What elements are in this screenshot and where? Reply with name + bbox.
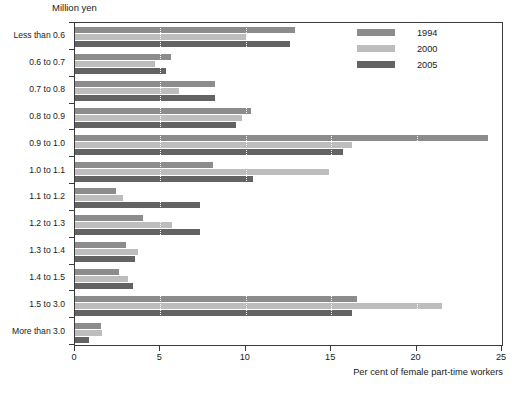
bar (75, 303, 442, 309)
bar (75, 169, 329, 175)
plot-area (74, 22, 503, 346)
x-axis-tick (245, 346, 246, 351)
bar (75, 142, 352, 148)
y-axis-tick (69, 49, 74, 50)
bar-group (75, 157, 502, 184)
x-axis-tick-label: 5 (157, 352, 162, 362)
bar (75, 195, 123, 201)
y-axis-tick-label: 1.0 to 1.1 (29, 165, 65, 175)
x-axis-tick (416, 346, 417, 351)
chart-figure: Million yen Less than 0.60.6 to 0.70.7 t… (0, 0, 518, 395)
y-axis-tick-label: 0.8 to 0.9 (29, 111, 65, 121)
y-axis-tick-label: Less than 0.6 (13, 30, 65, 40)
y-axis-tick-label: 0.9 to 1.0 (29, 138, 65, 148)
bar-group (75, 265, 502, 292)
legend-item: 2005 (357, 58, 437, 71)
bar (75, 122, 236, 128)
y-axis-tick (69, 183, 74, 184)
bar (75, 222, 172, 228)
y-axis-tick-label: 1.3 to 1.4 (29, 245, 65, 255)
y-axis-tick (69, 103, 74, 104)
legend-label: 2000 (417, 44, 437, 54)
y-axis-tick (69, 317, 74, 318)
x-axis-tick-label: 10 (240, 352, 250, 362)
x-axis-tick (159, 346, 160, 351)
bar (75, 61, 155, 67)
bar (75, 95, 215, 101)
legend-item: 2000 (357, 42, 437, 55)
y-axis-tick-label: 1.5 to 3.0 (29, 299, 65, 309)
y-axis-unit-title: Million yen (52, 2, 97, 13)
bar-group (75, 23, 502, 50)
bar (75, 162, 213, 168)
bar-rows (75, 23, 502, 345)
bar (75, 188, 116, 194)
bar (75, 81, 215, 87)
bar (75, 68, 166, 74)
y-axis-tick-label: More than 3.0 (12, 326, 65, 336)
bar (75, 276, 128, 282)
bar (75, 149, 343, 155)
y-axis-tick-label: 1.2 to 1.3 (29, 218, 65, 228)
legend-swatch (357, 61, 395, 68)
bar (75, 41, 290, 47)
x-axis-tick-label: 0 (71, 352, 76, 362)
bar-group (75, 50, 502, 77)
x-axis-tick-label: 25 (496, 352, 506, 362)
y-axis-tick (69, 344, 74, 345)
bar (75, 337, 89, 343)
bar (75, 330, 102, 336)
bar (75, 115, 242, 121)
legend-label: 2005 (417, 60, 437, 70)
bar (75, 34, 246, 40)
y-axis-tick-label: 0.6 to 0.7 (29, 57, 65, 67)
bar-group (75, 291, 502, 318)
x-axis-tick-label: 20 (410, 352, 420, 362)
bar (75, 135, 488, 141)
y-axis-tick (69, 210, 74, 211)
y-axis-tick (69, 237, 74, 238)
y-axis-tick (69, 76, 74, 77)
chart-legend: 199420002005 (357, 26, 437, 74)
legend-swatch (357, 29, 395, 36)
bar (75, 54, 171, 60)
bar-group (75, 130, 502, 157)
y-axis-tick (69, 264, 74, 265)
legend-swatch (357, 45, 395, 52)
y-axis-labels: Less than 0.60.6 to 0.70.7 to 0.80.8 to … (0, 22, 70, 346)
bar (75, 323, 101, 329)
bar (75, 249, 138, 255)
bar-group (75, 318, 502, 345)
y-axis-tick-label: 1.4 to 1.5 (29, 272, 65, 282)
bar (75, 27, 295, 33)
bar-group (75, 238, 502, 265)
bar-group (75, 77, 502, 104)
bar-group (75, 104, 502, 131)
bar (75, 256, 135, 262)
bar (75, 202, 200, 208)
y-axis-tick-label: 1.1 to 1.2 (29, 191, 65, 201)
y-axis-tick (69, 22, 74, 23)
bar (75, 108, 251, 114)
x-axis-tick (74, 346, 75, 351)
bar (75, 176, 253, 182)
legend-label: 1994 (417, 28, 437, 38)
bar (75, 310, 352, 316)
x-axis-tick-label: 15 (325, 352, 335, 362)
y-axis-tick (69, 290, 74, 291)
bar (75, 242, 126, 248)
bar (75, 215, 143, 221)
y-axis-tick (69, 156, 74, 157)
bar (75, 296, 357, 302)
x-axis-tick (330, 346, 331, 351)
bar (75, 283, 133, 289)
bar (75, 229, 200, 235)
bar-group (75, 184, 502, 211)
x-axis-tick (501, 346, 502, 351)
y-axis-tick-label: 0.7 to 0.8 (29, 84, 65, 94)
legend-item: 1994 (357, 26, 437, 39)
x-axis-title: Per cent of female part-time workers (353, 367, 503, 377)
bar (75, 269, 119, 275)
bar-group (75, 211, 502, 238)
y-axis-tick (69, 129, 74, 130)
